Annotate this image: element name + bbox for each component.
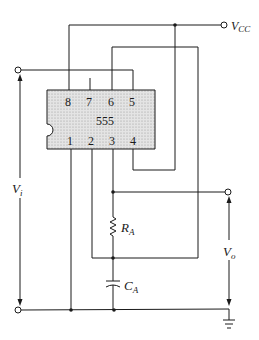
pin-4-label: 4	[130, 134, 136, 148]
resistor-ra: RA	[110, 215, 135, 258]
ra-label: RA	[120, 220, 135, 237]
vo-label: Vo	[223, 244, 236, 261]
chip-555: 8 7 6 5 555 1 2 3 4	[47, 90, 155, 149]
vi-top-terminal	[15, 67, 21, 73]
pin-5-label: 5	[129, 95, 135, 109]
vi-label: Vi	[12, 181, 23, 198]
vo-terminal	[225, 189, 231, 195]
pin-2-label: 2	[88, 134, 94, 148]
junction-dot	[69, 308, 73, 312]
circuit-diagram: VCC 8 7 6 5 555 1 2 3 4 RA	[0, 0, 259, 340]
pin2-wire	[92, 149, 198, 258]
capacitor-ca: CA	[106, 258, 139, 310]
junction-dot	[111, 190, 115, 194]
pin-8-label: 8	[65, 95, 71, 109]
chip-label: 555	[96, 114, 114, 128]
pin-1-label: 1	[67, 134, 73, 148]
pin-3-label: 3	[109, 134, 115, 148]
vo-arrow: Vo	[223, 196, 236, 306]
pin-6-label: 6	[108, 95, 114, 109]
pin-7-label: 7	[86, 95, 92, 109]
junction-dot	[112, 308, 116, 312]
ground-icon	[223, 320, 235, 328]
ca-label: CA	[124, 278, 139, 295]
ground-rail	[15, 307, 229, 320]
vi-bottom-terminal	[15, 307, 21, 313]
vi-top	[15, 67, 133, 90]
vcc-rail: VCC	[69, 19, 251, 90]
vcc-label: VCC	[231, 19, 251, 34]
vcc-terminal	[221, 22, 227, 28]
vi-arrow: Vi	[12, 74, 23, 306]
output-net	[111, 149, 231, 215]
